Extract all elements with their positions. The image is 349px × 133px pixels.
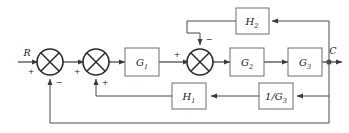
sign-input-r-plus: + <box>28 67 35 76</box>
sign-sum2-bottom-plus: + <box>102 78 109 87</box>
sign-sum3-top-minus: − <box>206 35 213 44</box>
label-input-r: R <box>22 47 30 58</box>
block-diagram-svg: R + − + + + − C G1 G2 G3 H1 H2 1/G3 <box>0 0 349 133</box>
sign-sum2-left-plus: + <box>74 67 81 76</box>
block-diagram-canvas: R + − + + + − C G1 G2 G3 H1 H2 1/G3 <box>0 0 349 133</box>
label-output-c: C <box>329 45 337 56</box>
sign-sum3-left-plus: + <box>174 50 181 59</box>
sign-sum1-bottom-minus: − <box>56 78 63 87</box>
